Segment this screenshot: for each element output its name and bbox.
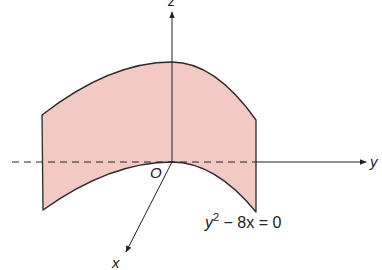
parabolic-surface bbox=[42, 62, 256, 212]
origin-label: O bbox=[150, 164, 162, 181]
x-axis-label: x bbox=[111, 254, 120, 270]
z-axis-label: z bbox=[167, 0, 175, 9]
y-axis-label: y bbox=[369, 153, 379, 170]
equation-rest: − 8x = 0 bbox=[219, 214, 281, 231]
diagram-canvas: z y x O y2 − 8x = 0 bbox=[0, 0, 382, 270]
x-axis bbox=[126, 162, 172, 252]
surface-equation: y2 − 8x = 0 bbox=[204, 211, 281, 231]
